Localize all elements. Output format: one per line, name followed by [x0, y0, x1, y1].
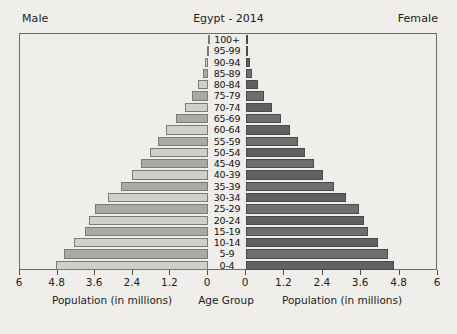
bar-male [121, 182, 208, 191]
bar-female [246, 125, 290, 134]
axis-title-left: Population (in millions) [52, 294, 172, 306]
axis-tick-label: 0 [204, 276, 211, 288]
pyramid-row: 85-89 [20, 68, 436, 79]
axis-tick [57, 270, 58, 275]
axis-tick [94, 270, 95, 275]
axis-tick-label: 0 [242, 276, 249, 288]
age-group-label: 95-99 [214, 45, 241, 56]
axis-tick-label: 3.6 [86, 276, 103, 288]
bar-female [246, 103, 272, 112]
axis-tick [283, 270, 284, 275]
bar-male [95, 204, 208, 213]
pyramid-row: 75-79 [20, 90, 436, 101]
axis-tick [169, 270, 170, 275]
pyramid-row: 35-39 [20, 181, 436, 192]
axis-tick-label: 1.2 [275, 276, 292, 288]
bar-male [132, 170, 208, 179]
bar-male [176, 114, 208, 123]
population-pyramid-figure: Male Egypt - 2014 Female 100+95-9990-948… [0, 0, 457, 334]
bar-female [246, 193, 346, 202]
age-group-label: 50-54 [214, 147, 241, 158]
bar-female [246, 170, 323, 179]
pyramid-row: 55-59 [20, 136, 436, 147]
pyramid-row: 80-84 [20, 79, 436, 90]
axis-tick [399, 270, 400, 275]
age-group-label: 80-84 [214, 79, 241, 90]
bars-container: 100+95-9990-9485-8980-8475-7970-7465-696… [20, 34, 436, 269]
bar-male [64, 249, 208, 258]
age-group-label: 55-59 [214, 136, 241, 147]
pyramid-row: 95-99 [20, 45, 436, 56]
age-group-label: 75-79 [214, 90, 241, 101]
bar-male [56, 261, 208, 270]
axis-tick [207, 270, 208, 275]
bar-female [246, 261, 394, 270]
axis-tick-label: 6 [434, 276, 441, 288]
axis-tick-label: 2.4 [123, 276, 140, 288]
age-group-label: 45-49 [214, 158, 241, 169]
pyramid-row: 90-94 [20, 57, 436, 68]
axis-tick-label: 6 [16, 276, 23, 288]
pyramid-row: 100+ [20, 34, 436, 45]
pyramid-row: 25-29 [20, 203, 436, 214]
pyramid-row: 70-74 [20, 102, 436, 113]
pyramid-row: 20-24 [20, 215, 436, 226]
pyramid-row: 40-39 [20, 169, 436, 180]
plot-area: 100+95-9990-9485-8980-8475-7970-7465-696… [19, 33, 437, 270]
bar-female [246, 46, 248, 55]
age-group-label: 90-94 [214, 57, 241, 68]
age-group-label: 30-34 [214, 192, 241, 203]
pyramid-row: 15-19 [20, 226, 436, 237]
bar-male [192, 91, 208, 100]
bar-male [108, 193, 208, 202]
age-group-label: 25-29 [214, 203, 241, 214]
bar-male [185, 103, 208, 112]
pyramid-row: 5-9 [20, 248, 436, 259]
bar-male [89, 216, 208, 225]
age-group-label: 85-89 [214, 68, 241, 79]
age-group-label: 70-74 [214, 102, 241, 113]
bar-female [246, 114, 281, 123]
bar-male [166, 125, 208, 134]
age-group-label: 15-19 [214, 226, 241, 237]
age-group-label: 35-39 [214, 181, 241, 192]
axis-tick [360, 270, 361, 275]
bar-male [198, 80, 208, 89]
legend-label-female: Female [398, 12, 438, 25]
bar-female [246, 204, 359, 213]
bar-male [141, 159, 208, 168]
bar-female [246, 227, 368, 236]
bar-female [246, 58, 250, 67]
bar-male [150, 148, 208, 157]
bar-male [85, 227, 208, 236]
age-group-label: 5-9 [220, 248, 235, 259]
bar-female [246, 159, 314, 168]
bar-male [74, 238, 208, 247]
pyramid-row: 65-69 [20, 113, 436, 124]
bar-male [208, 35, 210, 44]
pyramid-row: 45-49 [20, 158, 436, 169]
pyramid-row: 60-64 [20, 124, 436, 135]
bar-female [246, 137, 298, 146]
age-group-label: 20-24 [214, 215, 241, 226]
axis-title-center: Age Group [198, 294, 254, 306]
bar-female [246, 148, 305, 157]
bar-male [203, 69, 208, 78]
age-group-label: 100+ [214, 34, 239, 45]
bar-female [246, 80, 258, 89]
bar-male [207, 46, 209, 55]
axis-title-right: Population (in millions) [282, 294, 402, 306]
axis-tick [132, 270, 133, 275]
x-axis [0, 270, 457, 280]
bar-female [246, 91, 264, 100]
axis-tick [19, 270, 20, 275]
bar-female [246, 249, 388, 258]
bar-female [246, 238, 378, 247]
age-group-label: 65-69 [214, 113, 241, 124]
axis-tick-label: 4.8 [48, 276, 65, 288]
axis-tick [245, 270, 246, 275]
axis-tick-label: 3.6 [352, 276, 369, 288]
axis-tick [437, 270, 438, 275]
pyramid-row: 10-14 [20, 237, 436, 248]
pyramid-row: 30-34 [20, 192, 436, 203]
